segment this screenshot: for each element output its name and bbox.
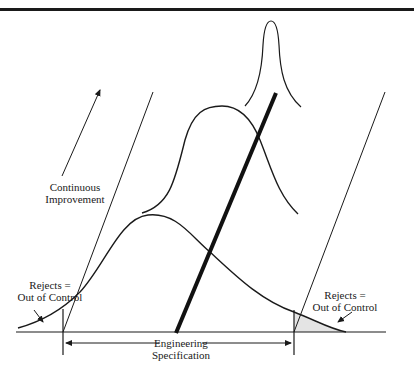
medium-distribution-curve [142,106,298,214]
label-line: Out of Control [305,301,385,313]
label-line: Rejects = [10,279,90,291]
continuous-improvement-label: Continuous Improvement [40,181,110,205]
engineering-spec-label: Engineering Specification [146,337,216,361]
continuous-improvement-arrow [62,90,100,176]
label-line: Continuous [40,181,110,193]
narrow-distribution-curve [245,21,301,107]
label-line: Out of Control [10,291,90,303]
process-trend-line [176,93,276,333]
rejects-right-label: Rejects = Out of Control [305,289,385,313]
label-line: Engineering [146,337,216,349]
label-line: Specification [146,349,216,361]
rejects-left-label: Rejects = Out of Control [10,279,90,303]
reject-right-arrow [338,312,352,322]
label-line: Rejects = [305,289,385,301]
label-line: Improvement [40,193,110,205]
